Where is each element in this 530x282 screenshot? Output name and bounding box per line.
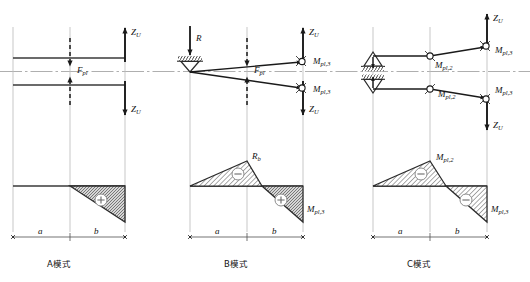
member-upper-right-c bbox=[430, 47, 485, 56]
label-hinge-bottom-right-c: Mpl,3 bbox=[494, 85, 513, 96]
label-force-r-b: R bbox=[195, 33, 202, 43]
figure-canvas: Fpl ZU ZU a b R Fpl ZU ZU Mpl,3 Mpl,3 Rb… bbox=[0, 0, 530, 282]
plastic-hinge-top-right-b bbox=[296, 56, 306, 66]
plastic-hinge-bottom-mid-c bbox=[425, 84, 435, 94]
label-dimension-b-b: b bbox=[272, 226, 277, 236]
label-hinge-top-mid-c: Mpl,2 bbox=[434, 60, 453, 71]
label-moment-end-c: Mpl,3 bbox=[490, 204, 509, 215]
caption-panel-b: B模式 bbox=[224, 257, 248, 269]
plastic-hinge-bottom-right-c bbox=[480, 94, 490, 104]
label-dimension-b-c: b bbox=[455, 226, 460, 236]
label-force-zu-top-c: ZU bbox=[493, 13, 504, 24]
label-dimension-a-c: a bbox=[398, 226, 403, 236]
label-moment-peak-b: Rb bbox=[251, 151, 262, 162]
support-pin-upper-c bbox=[361, 52, 385, 71]
plastic-hinge-top-right-c bbox=[480, 41, 490, 51]
moment-area-negative-b bbox=[190, 161, 262, 186]
label-force-zu-top-b: ZU bbox=[309, 27, 320, 38]
label-dimension-b-a: b bbox=[94, 226, 99, 236]
support-pin-triangle-b bbox=[181, 62, 199, 73]
caption-panel-c: C模式 bbox=[407, 257, 432, 269]
label-force-zu-bottom-b: ZU bbox=[309, 104, 320, 115]
moment-area-negative-left-c bbox=[373, 161, 446, 186]
label-force-fpl-a: Fpl bbox=[76, 65, 88, 76]
label-force-zu-bottom-c: ZU bbox=[493, 120, 504, 131]
panel-b bbox=[177, 26, 306, 241]
plastic-hinge-top-mid-c bbox=[425, 51, 435, 61]
label-dimension-a-b: a bbox=[215, 226, 220, 236]
label-hinge-top-right-b: Mpl,3 bbox=[312, 56, 331, 67]
member-lower-b bbox=[190, 72, 301, 88]
caption-panel-a: A模式 bbox=[47, 257, 71, 269]
label-force-zu-bottom-a: ZU bbox=[131, 104, 142, 115]
panel-a bbox=[13, 27, 125, 241]
support-ground-hatch-b bbox=[178, 56, 202, 61]
support-pin-lower-c bbox=[361, 75, 385, 94]
panel-c bbox=[361, 14, 490, 241]
label-force-fpl-b: Fpl bbox=[253, 65, 265, 76]
label-hinge-bottom-right-b: Mpl,3 bbox=[312, 84, 331, 95]
label-moment-peak-c: Mpl,2 bbox=[435, 152, 454, 163]
label-hinge-top-right-c: Mpl,3 bbox=[494, 45, 513, 56]
label-hinge-bottom-mid-c: Mpl,2 bbox=[437, 89, 456, 100]
member-upper-b bbox=[190, 62, 301, 72]
mechanics-diagram-svg: Fpl ZU ZU a b R Fpl ZU ZU Mpl,3 Mpl,3 Rb… bbox=[0, 0, 530, 282]
label-dimension-a-a: a bbox=[38, 226, 43, 236]
label-force-zu-top-a: ZU bbox=[131, 27, 142, 38]
label-moment-end-b: Mpl,3 bbox=[306, 204, 325, 215]
